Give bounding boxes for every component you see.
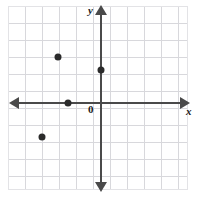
y-axis-label: y <box>88 5 93 16</box>
data-point <box>39 134 46 141</box>
grid-frame <box>8 6 188 190</box>
origin-label: 0 <box>88 104 94 115</box>
data-point <box>55 54 62 61</box>
data-point <box>65 100 72 107</box>
x-axis-label: x <box>186 106 192 117</box>
data-point <box>98 67 105 74</box>
x-axis-line <box>12 102 182 104</box>
x-axis-arrow-left-icon <box>9 97 19 109</box>
coordinate-plane-figure: y x 0 <box>0 0 199 201</box>
y-axis-arrow-up-icon <box>95 5 107 15</box>
y-axis-arrow-down-icon <box>95 182 107 192</box>
y-axis-line <box>100 14 102 184</box>
